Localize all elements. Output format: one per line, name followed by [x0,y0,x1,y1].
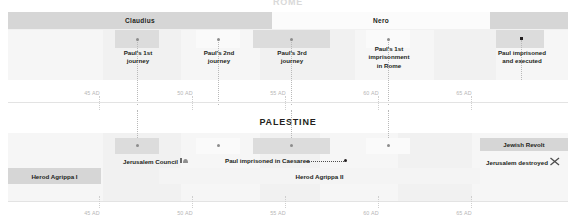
palestine-axis-tick-label-55: 55 AD [270,210,286,216]
connector-paul-caesarea [306,161,344,162]
ruler-bar-herod-agrippa-i[interactable]: Herod Agrippa I [8,168,101,184]
connector-end-paul-caesarea [344,159,347,162]
rome-axis-tick-label-55: 55 AD [270,90,286,96]
rome-axis-rule [8,102,568,103]
ruler-bar-herod-agrippa-ii[interactable]: Herod Agrippa II [159,168,480,184]
palestine-axis-tick-50 [192,196,193,208]
event-label-pauls-1st-imprisonment[interactable]: Paul's 1st imprisonment in Rome [356,45,422,70]
event-label-pauls-3rd-journey[interactable]: Paul's 3rd journey [261,49,323,66]
palestine-event-jewish-revolt-label: Jewish Revolt [503,141,544,148]
scroll-icon [180,157,189,165]
marker-dot-paul-executed [520,37,523,40]
ruler-bar-claudius-label: Claudius [125,17,155,24]
rome-axis-tick-45 [99,96,100,110]
marker-dot-palestine-50 [217,144,220,147]
rome-axis-tick-label-45: 45 AD [84,90,100,96]
palestine-event-jerusalem-destroyed[interactable]: Jerusalem destroyed [486,157,560,167]
marker-dot-pauls-1st-imprisonment [387,38,390,41]
crossed-swords-icon [550,157,560,167]
rome-axis-tick-60 [378,96,379,110]
palestine-axis-rule [8,201,568,202]
marker-dot-pauls-2nd-journey [217,38,220,41]
event-label-paul-executed[interactable]: Paul imprisoned and executed [483,49,561,66]
ruler-bar-claudius[interactable]: Claudius [8,12,272,29]
marker-dot-jerusalem-council [136,144,139,147]
palestine-axis-tick-label-45: 45 AD [84,210,100,216]
palestine-axis-tick-65 [471,196,472,208]
rome-axis-tick-label-50: 50 AD [177,90,193,96]
rome-axis-tick-55 [285,96,286,110]
palestine-event-jewish-revolt[interactable]: Jewish Revolt [480,138,568,151]
palestine-event-paul-caesarea-label: Paul imprisoned in Caesarea [225,157,310,164]
rome-axis-tick-65 [471,96,472,110]
marker-dot-pauls-3rd-journey [290,38,293,41]
ruler-bar-nero[interactable]: Nero [272,12,490,29]
ruler-bar-herod-agrippa-ii-label: Herod Agrippa II [296,173,344,180]
ruler-bar-herod-agrippa-i-label: Herod Agrippa I [31,173,77,180]
rome-section-title: ROME [0,0,576,7]
palestine-event-jerusalem-council[interactable]: Jerusalem Council [123,157,189,165]
rome-axis-tick-50 [192,96,193,110]
marker-dot-pauls-1st-journey [136,38,139,41]
rome-axis-tick-label-60: 60 AD [363,90,379,96]
marker-dot-palestine-60 [387,144,390,147]
palestine-axis-tick-label-65: 65 AD [456,210,472,216]
event-label-pauls-2nd-journey[interactable]: Paul's 2nd journey [188,49,250,66]
palestine-event-jerusalem-destroyed-label: Jerusalem destroyed [486,159,548,166]
palestine-axis-tick-60 [378,196,379,208]
event-label-pauls-1st-journey[interactable]: Paul's 1st journey [107,49,169,66]
rome-panel-stripe-1 [8,30,103,80]
palestine-axis-tick-45 [99,196,100,208]
ruler-bar-nero-tail [490,12,568,29]
timeline-root: ROME Claudius Nero Paul's 1st journey Pa… [0,0,576,224]
palestine-axis-tick-label-60: 60 AD [363,210,379,216]
rome-axis-tick-label-65: 65 AD [456,90,472,96]
palestine-event-jerusalem-council-label: Jerusalem Council [123,158,178,165]
ruler-bar-nero-label: Nero [373,17,389,24]
palestine-panel-stripe-1 [8,133,103,201]
palestine-axis-tick-label-50: 50 AD [177,210,193,216]
marker-dot-paul-caesarea [290,144,293,147]
palestine-axis-tick-55 [285,196,286,208]
palestine-section-title: PALESTINE [0,117,576,127]
palestine-event-paul-caesarea[interactable]: Paul imprisoned in Caesarea [225,157,310,164]
